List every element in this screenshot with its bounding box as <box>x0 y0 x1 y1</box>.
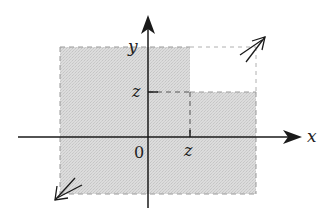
arrow-up-right-icon <box>240 37 265 62</box>
y-axis-label: y <box>127 36 138 56</box>
y-z-label: z <box>131 82 141 101</box>
x-axis-label: x <box>307 126 317 146</box>
region-diagram: y x 0 z z <box>0 0 335 215</box>
shaded-region <box>60 47 256 194</box>
x-z-label: z <box>183 141 193 160</box>
excluded-box-outline <box>190 47 256 92</box>
origin-label: 0 <box>134 143 144 162</box>
